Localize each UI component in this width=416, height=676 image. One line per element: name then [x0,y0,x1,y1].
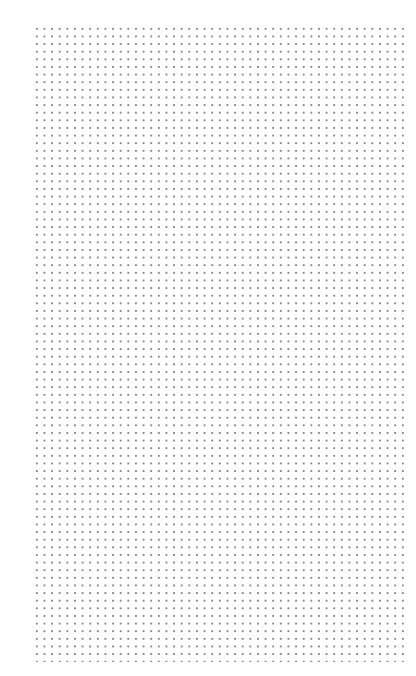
dot-grid [33,25,405,662]
dotted-paper-page [0,0,416,676]
